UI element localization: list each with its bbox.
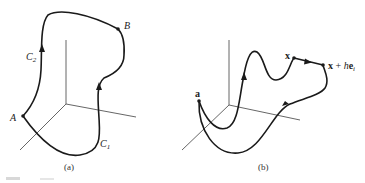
arrow-c2-icon <box>39 44 45 52</box>
label-point-x-plus-hei: x + hei <box>328 60 355 73</box>
cutoff-caption-fragment <box>6 177 20 180</box>
label-c1: C1 <box>100 138 110 151</box>
panel-b: a x x + hei (b) <box>182 40 355 172</box>
y-axis <box>229 105 300 120</box>
point-a-dot <box>21 114 25 118</box>
label-point-x: x <box>285 50 290 61</box>
point-x-dot <box>292 56 296 60</box>
diagram-canvas: A B C2 C1 (a) <box>0 0 365 183</box>
path-lower <box>199 65 327 153</box>
curve-c1 <box>23 29 124 155</box>
label-point-a: A <box>9 112 17 123</box>
point-a-vector-dot <box>197 99 201 103</box>
x-axis <box>182 105 229 150</box>
figure: A B C2 C1 (a) <box>0 0 365 183</box>
label-point-a-vector: a <box>195 88 200 99</box>
curve-c2 <box>23 12 118 116</box>
cutoff-caption-fragment <box>40 178 54 180</box>
caption-b: (b) <box>258 162 269 172</box>
path-upper <box>199 51 294 128</box>
point-b-dot <box>116 27 120 31</box>
label-point-b: B <box>124 20 130 31</box>
y-axis <box>66 104 136 117</box>
caption-a: (a) <box>64 162 74 172</box>
arrow-upper-icon <box>241 72 247 80</box>
panel-a: A B C2 C1 (a) <box>9 12 136 172</box>
point-x-plus-hei-dot <box>321 63 325 67</box>
label-c2: C2 <box>26 51 37 64</box>
